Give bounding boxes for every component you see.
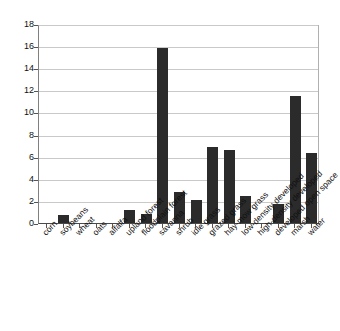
x-tick-mark [145, 224, 146, 228]
y-tick-mark [34, 47, 38, 48]
gridline [39, 69, 318, 70]
gridline [39, 91, 318, 92]
gridline [39, 25, 318, 26]
x-tick-mark [278, 224, 279, 228]
bar [124, 210, 135, 223]
bar [157, 48, 168, 223]
bar [174, 192, 185, 224]
y-tick-mark [34, 158, 38, 159]
x-tick-mark [228, 224, 229, 228]
x-tick-mark [112, 224, 113, 228]
y-tick-mark [34, 136, 38, 137]
y-tick-label: 2 [4, 197, 34, 206]
bar [207, 147, 218, 223]
bar [240, 196, 251, 223]
bar [191, 200, 202, 223]
x-tick-mark [311, 224, 312, 228]
y-tick-label: 18 [4, 20, 34, 29]
y-tick-label: 8 [4, 131, 34, 140]
bar [224, 150, 235, 223]
gridline [39, 113, 318, 114]
x-tick-mark [294, 224, 295, 228]
x-tick-mark [129, 224, 130, 228]
y-tick-mark [34, 25, 38, 26]
y-tick-label: 6 [4, 153, 34, 162]
y-tick-label: 16 [4, 42, 34, 51]
y-tick-mark [34, 202, 38, 203]
y-tick-mark [34, 180, 38, 181]
gridline [39, 158, 318, 159]
y-tick-label: 4 [4, 175, 34, 184]
y-tick-mark [34, 224, 38, 225]
y-tick-label: 12 [4, 86, 34, 95]
x-tick-mark [245, 224, 246, 228]
bar [290, 96, 301, 223]
y-tick-mark [34, 113, 38, 114]
bar [306, 153, 317, 223]
bar [273, 204, 284, 223]
y-tick-label: 0 [4, 219, 34, 228]
x-tick-mark [212, 224, 213, 228]
y-tick-mark [34, 91, 38, 92]
x-tick-mark [96, 224, 97, 228]
plot-area [38, 25, 319, 224]
x-tick-mark [179, 224, 180, 228]
x-tick-mark [162, 224, 163, 228]
y-tick-mark [34, 69, 38, 70]
y-tick-label: 10 [4, 108, 34, 117]
x-tick-mark [261, 224, 262, 228]
y-tick-label: 14 [4, 64, 34, 73]
gridline [39, 47, 318, 48]
gridline [39, 180, 318, 181]
gridline [39, 136, 318, 137]
x-tick-mark [63, 224, 64, 228]
x-tick-mark [79, 224, 80, 228]
bar [141, 214, 152, 223]
y-axis: 024681012141618 [0, 0, 34, 331]
bar [58, 215, 69, 223]
x-tick-mark [195, 224, 196, 228]
x-tick-mark [46, 224, 47, 228]
